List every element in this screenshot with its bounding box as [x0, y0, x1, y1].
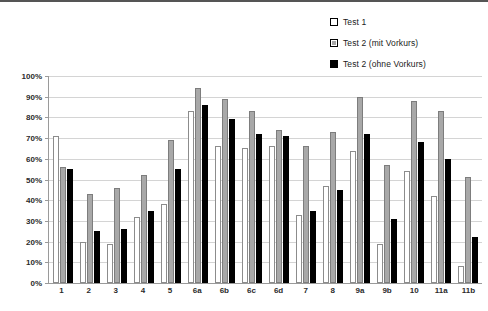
bar: [195, 88, 201, 283]
bar: [53, 136, 59, 283]
y-tick-label: 70%: [26, 134, 42, 143]
bar-group: [130, 76, 157, 283]
y-tick-label: 60%: [26, 154, 42, 163]
bar: [472, 237, 478, 283]
legend-label: Test 2 (mit Vorkurs): [343, 38, 418, 48]
y-tick-label: 100%: [22, 72, 42, 81]
x-tick-label: 4: [129, 286, 156, 295]
bar-group: [103, 76, 130, 283]
y-tick-label: 20%: [26, 237, 42, 246]
y-tick-label: 0%: [30, 279, 42, 288]
bar-group: [238, 76, 265, 283]
bar: [411, 101, 417, 283]
bar: [296, 215, 302, 283]
bar: [256, 134, 262, 283]
legend-item-test-1: Test 1: [330, 12, 482, 31]
bar: [121, 229, 127, 283]
bar: [404, 171, 410, 283]
bar-group: [49, 76, 76, 283]
y-tick-label: 40%: [26, 196, 42, 205]
bar-group: [374, 76, 401, 283]
bar: [438, 111, 444, 283]
x-tick-label: 10: [401, 286, 428, 295]
y-tick-label: 90%: [26, 92, 42, 101]
x-tick-label: 5: [157, 286, 184, 295]
bar: [215, 146, 221, 283]
bar: [148, 211, 154, 283]
bar-group: [455, 76, 482, 283]
x-tick-label: 11b: [455, 286, 482, 295]
bar: [168, 140, 174, 283]
bar: [465, 177, 471, 283]
bar-groups: [49, 76, 482, 283]
x-tick-label: 9a: [346, 286, 373, 295]
x-tick-label: 8: [319, 286, 346, 295]
bar: [134, 217, 140, 283]
bar-group: [293, 76, 320, 283]
bar: [175, 169, 181, 283]
plot-area: [48, 76, 482, 284]
bar-group: [76, 76, 103, 283]
bar-group: [428, 76, 455, 283]
bar: [222, 99, 228, 283]
legend-label: Test 2 (ohne Vorkurs): [343, 59, 426, 69]
bar: [276, 130, 282, 283]
bar: [350, 151, 356, 283]
legend-swatch-white-icon: [330, 18, 338, 26]
legend-swatch-black-icon: [330, 60, 338, 68]
bar-group: [157, 76, 184, 283]
legend-item-test-2-ohne-vorkurs: Test 2 (ohne Vorkurs): [330, 54, 482, 73]
bar-group: [401, 76, 428, 283]
bar-group: [347, 76, 374, 283]
bar: [249, 111, 255, 283]
y-tick-label: 10%: [26, 258, 42, 267]
bar: [67, 169, 73, 283]
x-tick-label: 9b: [374, 286, 401, 295]
bar: [445, 159, 451, 283]
legend-item-test-2-mit-vorkurs: Test 2 (mit Vorkurs): [330, 33, 482, 52]
bar: [431, 196, 437, 283]
x-tick-label: 2: [75, 286, 102, 295]
bar: [357, 97, 363, 283]
y-tick-mark: [45, 283, 49, 284]
x-tick-label: 7: [292, 286, 319, 295]
x-tick-label: 6b: [211, 286, 238, 295]
bar: [107, 244, 113, 283]
bar: [364, 134, 370, 283]
bar: [60, 167, 66, 283]
legend-swatch-gray-icon: [330, 39, 338, 47]
x-tick-label: 6a: [184, 286, 211, 295]
x-tick-label: 1: [48, 286, 75, 295]
bar: [161, 204, 167, 283]
bar: [384, 165, 390, 283]
bar: [188, 111, 194, 283]
bar: [377, 244, 383, 283]
bar-group: [184, 76, 211, 283]
bar-group: [266, 76, 293, 283]
bar: [114, 188, 120, 283]
x-axis: 123456a6b6c6d789a9b1011a11b: [48, 286, 482, 295]
bar: [418, 142, 424, 283]
bar: [310, 211, 316, 283]
bar: [391, 219, 397, 283]
bar: [141, 175, 147, 283]
bar: [458, 266, 464, 283]
y-tick-label: 80%: [26, 113, 42, 122]
bar: [303, 146, 309, 283]
bar: [80, 242, 86, 283]
bar-group: [320, 76, 347, 283]
bar: [283, 136, 289, 283]
x-tick-label: 3: [102, 286, 129, 295]
bar: [94, 231, 100, 283]
chart-legend: Test 1 Test 2 (mit Vorkurs) Test 2 (ohne…: [330, 12, 482, 75]
y-tick-label: 50%: [26, 175, 42, 184]
bar: [202, 105, 208, 283]
bar: [269, 146, 275, 283]
x-tick-label: 11a: [428, 286, 455, 295]
legend-label: Test 1: [343, 17, 366, 27]
bar: [229, 119, 235, 283]
plot-wrapper: 100%90%80%70%60%50%40%30%20%10%0%: [8, 76, 482, 284]
x-tick-label: 6d: [265, 286, 292, 295]
y-axis: 100%90%80%70%60%50%40%30%20%10%0%: [8, 76, 46, 284]
x-tick-label: 6c: [238, 286, 265, 295]
